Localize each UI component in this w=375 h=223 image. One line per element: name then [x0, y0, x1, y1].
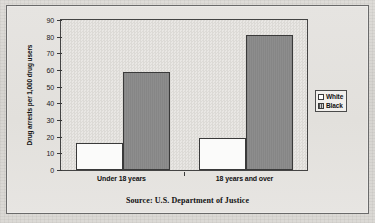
- y-tick-label-20: 20: [47, 133, 54, 140]
- legend-swatch-white-icon: [318, 94, 324, 100]
- bar-black-0[interactable]: [123, 72, 170, 170]
- bar-group-1: [199, 20, 293, 170]
- y-tick-label-40: 40: [47, 100, 54, 107]
- bar-group-0: [76, 20, 170, 170]
- y-axis-title: Drug arrests per 1,000 drug users: [24, 19, 34, 171]
- chart-legend: White Black: [315, 90, 347, 112]
- y-tick-label-10: 10: [47, 150, 54, 157]
- legend-swatch-black-icon: [318, 103, 324, 109]
- y-tick-label-80: 80: [47, 33, 54, 40]
- chart-figure: Drug arrests per 1,000 drug users 010203…: [6, 5, 369, 214]
- y-tick-label-30: 30: [47, 117, 54, 124]
- y-tick-label-60: 60: [47, 67, 54, 74]
- x-axis-label-1: 18 years and over: [185, 175, 305, 182]
- bar-black-1[interactable]: [246, 35, 293, 170]
- legend-item-black[interactable]: Black: [318, 102, 343, 109]
- y-tick-label-70: 70: [47, 50, 54, 57]
- legend-label-white: White: [326, 93, 343, 100]
- bar-white-0[interactable]: [76, 143, 123, 170]
- bar-white-1[interactable]: [199, 138, 246, 170]
- y-tick-label-90: 90: [47, 17, 54, 24]
- y-tick-label-50: 50: [47, 83, 54, 90]
- y-tick-0: [57, 170, 62, 171]
- x-axis-label-0: Under 18 years: [62, 175, 182, 182]
- page-background: Drug arrests per 1,000 drug users 010203…: [0, 0, 375, 223]
- plot-area: 0102030405060708090: [60, 19, 308, 171]
- legend-item-white[interactable]: White: [318, 93, 343, 100]
- source-caption: Source: U.S. Department of Justice: [7, 196, 368, 205]
- legend-label-black: Black: [326, 102, 343, 109]
- bar-series-container: [61, 20, 307, 170]
- y-tick-label-0: 0: [50, 167, 54, 174]
